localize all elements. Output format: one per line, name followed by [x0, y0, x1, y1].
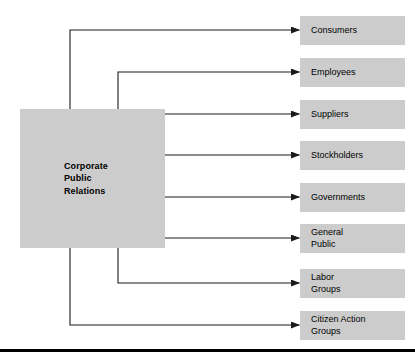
node-label-stockholders: Stockholders [300, 150, 363, 162]
connector-arrow-7 [70, 248, 300, 325]
node-box-governments: Governments [300, 183, 405, 212]
node-label-employees: Employees [300, 67, 356, 79]
node-box-general-public: General Public [300, 224, 405, 253]
node-box-citizen-action-groups: Citizen Action Groups [300, 311, 405, 340]
node-box-employees: Employees [300, 58, 405, 87]
node-box-consumers: Consumers [300, 16, 405, 45]
connector-arrow-0 [70, 30, 300, 109]
node-label-general-public: General Public [300, 227, 343, 250]
hub-box-corporate-public-relations: Corporate Public Relations [20, 109, 165, 248]
node-label-citizen-action-groups: Citizen Action Groups [300, 314, 366, 337]
bottom-rule-divider [0, 349, 415, 352]
node-box-stockholders: Stockholders [300, 141, 405, 170]
node-label-labor-groups: Labor Groups [300, 272, 341, 295]
node-label-governments: Governments [300, 192, 365, 204]
node-label-suppliers: Suppliers [300, 109, 349, 121]
connector-arrow-6 [118, 248, 300, 283]
hub-label: Corporate Public Relations [20, 160, 108, 198]
connector-arrow-1 [118, 72, 300, 109]
node-label-consumers: Consumers [300, 25, 357, 37]
node-box-suppliers: Suppliers [300, 100, 405, 129]
corporate-public-relations-diagram: Corporate Public Relations Consumers Emp… [0, 0, 415, 357]
node-box-labor-groups: Labor Groups [300, 269, 405, 298]
